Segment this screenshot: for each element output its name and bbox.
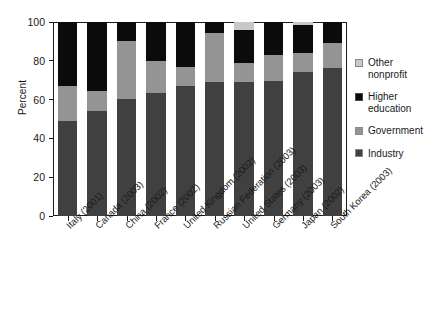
y-axis-tick-label: 20: [11, 172, 45, 183]
legend-swatch-industry: [355, 149, 363, 157]
bar-segment-higher-education[interactable]: [58, 22, 77, 86]
bar-segment-government[interactable]: [176, 67, 195, 86]
bar-segment-other-nonprofit[interactable]: [234, 22, 253, 30]
y-axis-tick-label: 100: [11, 17, 45, 28]
bar-segment-government[interactable]: [146, 61, 165, 93]
bar-segment-government[interactable]: [58, 86, 77, 121]
plot-right-line: [346, 22, 347, 216]
bar-segment-government[interactable]: [117, 41, 136, 98]
bar-segment-higher-education[interactable]: [176, 22, 195, 67]
legend-label-industry: Industry: [368, 148, 404, 160]
bar-segment-government[interactable]: [323, 43, 342, 67]
bar-segment-higher-education[interactable]: [264, 22, 283, 55]
chart-legend: Other nonprofitHigher educationGovernmen…: [355, 57, 443, 170]
bar-canada-2003[interactable]: [87, 22, 106, 216]
bar-segment-higher-education[interactable]: [323, 22, 342, 43]
bar-segment-government[interactable]: [234, 63, 253, 82]
legend-swatch-other-nonprofit: [355, 59, 363, 67]
bar-segment-other-nonprofit[interactable]: [293, 22, 312, 25]
legend-label-government: Government: [368, 125, 423, 137]
y-axis-tick-label: 60: [11, 94, 45, 105]
bar-italy-2001[interactable]: [58, 22, 77, 216]
legend-item-government[interactable]: Government: [355, 125, 443, 137]
legend-label-other-nonprofit: Other nonprofit: [368, 57, 407, 80]
y-axis-tick-label: 0: [11, 211, 45, 222]
bar-segment-industry[interactable]: [58, 121, 77, 216]
legend-item-industry[interactable]: Industry: [355, 148, 443, 160]
y-axis-line: [53, 22, 54, 216]
bar-segment-higher-education[interactable]: [205, 22, 224, 33]
bar-segment-higher-education[interactable]: [293, 25, 312, 53]
legend-swatch-higher-education: [355, 93, 363, 101]
bar-segment-higher-education[interactable]: [234, 30, 253, 63]
bar-segment-government[interactable]: [205, 33, 224, 82]
bar-segment-higher-education[interactable]: [146, 22, 165, 61]
bar-segment-government[interactable]: [264, 55, 283, 81]
legend-item-higher-education[interactable]: Higher education: [355, 91, 443, 114]
bar-segment-higher-education[interactable]: [117, 22, 136, 41]
bar-segment-government[interactable]: [293, 53, 312, 72]
y-axis-tick-label: 80: [11, 56, 45, 67]
y-axis-tick-label: 40: [11, 133, 45, 144]
legend-label-higher-education: Higher education: [368, 91, 411, 114]
stacked-bar-chart: Percent 020406080100 Italy (2001)Canada …: [0, 0, 444, 332]
legend-item-other-nonprofit[interactable]: Other nonprofit: [355, 57, 443, 80]
bar-segment-higher-education[interactable]: [87, 22, 106, 91]
bar-segment-government[interactable]: [87, 91, 106, 111]
legend-swatch-government: [355, 127, 363, 135]
